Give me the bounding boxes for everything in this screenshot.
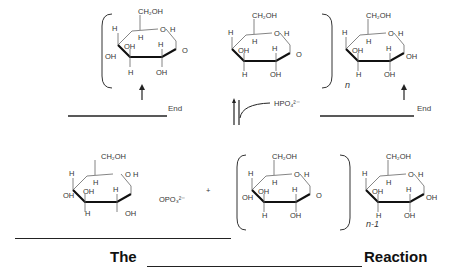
left-end-label: End	[168, 104, 182, 113]
glucose-ring-3: CH₂OH H H O H OH H H OH OH	[342, 11, 417, 79]
svg-text:O: O	[125, 170, 131, 179]
svg-text:OH: OH	[426, 193, 437, 202]
svg-text:H: H	[342, 28, 347, 37]
svg-text:H: H	[406, 185, 411, 194]
svg-text:O: O	[408, 170, 414, 179]
svg-text:H: H	[362, 169, 367, 178]
svg-text:H: H	[386, 44, 391, 53]
footer-prefix: The	[110, 248, 137, 265]
equilibrium-arrow-icon	[232, 98, 270, 125]
svg-text:O: O	[274, 29, 280, 38]
svg-text:H: H	[170, 25, 175, 34]
svg-text:H: H	[376, 211, 381, 220]
svg-text:O: O	[316, 191, 322, 200]
svg-text:H: H	[418, 170, 423, 179]
svg-text:OH: OH	[270, 70, 281, 79]
svg-text:OH: OH	[406, 52, 417, 61]
svg-text:H: H	[69, 169, 74, 178]
svg-text:H: H	[158, 40, 163, 49]
hpo4-reagent: HPO₄²⁻	[274, 99, 300, 108]
svg-text:OH: OH	[352, 46, 363, 55]
svg-text:H: H	[272, 178, 277, 187]
svg-text:H: H	[262, 211, 267, 220]
svg-text:OH: OH	[242, 193, 253, 202]
svg-text:O: O	[294, 170, 300, 179]
svg-text:O: O	[160, 25, 166, 34]
glucose-ring-4: CH₂OH H H O H OH OH H H OH O	[242, 152, 322, 220]
svg-text:O: O	[182, 46, 188, 55]
up-arrow-icon	[139, 84, 145, 100]
svg-text:H: H	[242, 70, 247, 79]
svg-text:H: H	[248, 169, 253, 178]
right-end-label: End	[417, 104, 431, 113]
svg-text:CH₂OH: CH₂OH	[101, 152, 126, 161]
svg-text:H: H	[112, 24, 117, 33]
svg-text:OH: OH	[156, 68, 167, 77]
glucose-ring-2: CH₂OH H H O H OH H H OH O	[228, 11, 302, 79]
svg-text:OPO₃²⁻: OPO₃²⁻	[159, 195, 185, 204]
svg-text:O: O	[296, 50, 302, 59]
svg-text:CH₂OH: CH₂OH	[252, 11, 277, 20]
repeat-n: n	[345, 80, 350, 90]
svg-text:OH: OH	[238, 46, 249, 55]
svg-text:H: H	[292, 185, 297, 194]
svg-text:OH: OH	[384, 70, 395, 79]
svg-text:H: H	[386, 178, 391, 187]
svg-text:H: H	[252, 37, 257, 46]
svg-text:H: H	[398, 29, 403, 38]
bottom-right-bracket	[340, 155, 350, 230]
top-left-bracket	[102, 14, 112, 88]
svg-text:H: H	[128, 68, 133, 77]
svg-text:H: H	[304, 170, 309, 179]
svg-text:O: O	[388, 29, 394, 38]
svg-text:CH₂OH: CH₂OH	[386, 152, 411, 161]
svg-text:CH₂OH: CH₂OH	[272, 152, 297, 161]
svg-text:OH: OH	[258, 187, 269, 196]
glucose-ring-5: CH₂OH H H O H OH H H OH OH	[362, 152, 437, 220]
svg-text:OH: OH	[372, 187, 383, 196]
svg-text:H: H	[93, 178, 98, 187]
svg-text:H: H	[366, 37, 371, 46]
svg-text:H: H	[284, 29, 289, 38]
top-right-bracket	[322, 14, 332, 88]
svg-text:OH: OH	[83, 187, 94, 196]
svg-text:OH: OH	[290, 211, 301, 220]
repeat-n-minus-1: n-1	[366, 219, 379, 229]
glucose-ring-1: CH₂OH H H O H OH OH H H OH O	[105, 7, 188, 77]
svg-text:H: H	[356, 70, 361, 79]
reaction-name-blank	[147, 266, 362, 267]
footer-suffix: Reaction	[364, 248, 427, 265]
svg-text:OH: OH	[63, 191, 74, 200]
svg-text:H: H	[133, 170, 138, 179]
svg-text:H: H	[138, 33, 143, 42]
plus-sign: +	[206, 186, 211, 195]
svg-text:H: H	[85, 209, 90, 218]
svg-text:OH: OH	[404, 211, 415, 220]
product-name-blank	[15, 238, 231, 239]
svg-text:H: H	[272, 44, 277, 53]
svg-text:CH₂OH: CH₂OH	[138, 7, 163, 16]
svg-text:CH₂OH: CH₂OH	[366, 11, 391, 20]
svg-text:OH: OH	[125, 209, 136, 218]
svg-text:OH: OH	[105, 52, 116, 61]
up-arrow-icon	[401, 84, 407, 100]
glycogen-phosphorolysis-diagram: CH₂OH H H O H OH OH H H OH O CH₂OH H H O…	[0, 0, 467, 274]
svg-text:OH: OH	[124, 42, 135, 51]
glucose-1-phosphate: CH₂OH H H O H OH OH H H OH OPO₃²⁻	[63, 152, 185, 218]
svg-text:H: H	[228, 28, 233, 37]
svg-text:H: H	[113, 185, 118, 194]
